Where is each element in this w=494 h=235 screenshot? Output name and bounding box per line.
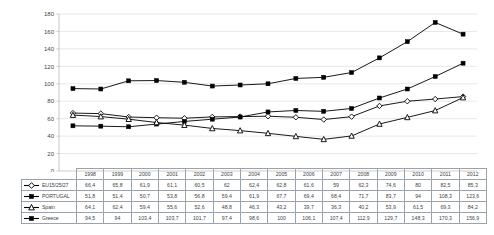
table-cell: 83,7 bbox=[377, 191, 404, 202]
column-header-2001: 2001 bbox=[158, 169, 185, 180]
filled-square-marker bbox=[322, 109, 326, 113]
series-legend-portugal: PORTUGAL bbox=[22, 191, 77, 202]
table-cell: 50,7 bbox=[131, 191, 158, 202]
y-axis-tick-label: 40 bbox=[47, 133, 54, 139]
table-cell: 85,3 bbox=[459, 180, 486, 191]
filled-square-marker bbox=[322, 75, 326, 79]
table-row: EU15/25/2766,465,861,961,160,56262,462,8… bbox=[22, 180, 487, 191]
chart-canvas: 020406080100120140160180 bbox=[0, 0, 494, 172]
table-cell: 98,6 bbox=[240, 213, 267, 224]
series-legend-eu15-25-27: EU15/25/27 bbox=[22, 180, 77, 191]
table-cell: 62,3 bbox=[350, 180, 377, 191]
column-header-2005: 2005 bbox=[268, 169, 295, 180]
table-cell: 55,6 bbox=[158, 202, 185, 213]
filled-square-marker bbox=[461, 32, 465, 36]
table-cell: 39,7 bbox=[295, 202, 322, 213]
table-cell: 60,5 bbox=[186, 180, 213, 191]
table-cell: 106,1 bbox=[295, 213, 322, 224]
table-cell: 59 bbox=[322, 180, 349, 191]
series-label: Greece bbox=[42, 214, 75, 223]
filled-square-marker bbox=[350, 106, 354, 110]
filled-square-marker bbox=[71, 87, 75, 91]
table-cell: 68,4 bbox=[322, 191, 349, 202]
table-cell: 156,9 bbox=[459, 213, 486, 224]
legend-marker-open-triangle-icon bbox=[23, 203, 40, 212]
filled-square-marker bbox=[350, 71, 354, 75]
filled-square-marker bbox=[266, 82, 270, 86]
table-cell: 94 bbox=[104, 213, 131, 224]
table-cell: 61,9 bbox=[131, 180, 158, 191]
table-cell: 148,3 bbox=[404, 213, 431, 224]
column-header-2012: 2012 bbox=[459, 169, 486, 180]
table-cell: 46,3 bbox=[240, 202, 267, 213]
filled-square-marker bbox=[182, 80, 186, 84]
table-cell: 59,4 bbox=[131, 202, 158, 213]
open-diamond-marker bbox=[29, 182, 35, 188]
table-cell: 62,8 bbox=[268, 180, 295, 191]
column-header-2004: 2004 bbox=[240, 169, 267, 180]
data-table: 1998199920002001200220032004200520062007… bbox=[21, 168, 487, 224]
table-cell: 64,1 bbox=[77, 202, 104, 213]
filled-square-marker bbox=[127, 79, 131, 83]
y-axis-tick-label: 140 bbox=[44, 46, 55, 52]
column-header-2003: 2003 bbox=[213, 169, 240, 180]
table-cell: 100 bbox=[268, 213, 295, 224]
table-corner-cell bbox=[22, 169, 77, 180]
filled-square-marker bbox=[377, 56, 381, 60]
filled-square-marker bbox=[99, 124, 103, 128]
table-cell: 80 bbox=[404, 180, 431, 191]
table-cell: 61,5 bbox=[404, 202, 431, 213]
series-label: Spain bbox=[42, 203, 75, 212]
filled-square-marker bbox=[433, 20, 437, 24]
filled-square-marker bbox=[29, 194, 33, 198]
series-legend-spain: Spain bbox=[22, 202, 77, 213]
filled-square-marker bbox=[405, 40, 409, 44]
column-header-2008: 2008 bbox=[350, 169, 377, 180]
table-header-row: 1998199920002001200220032004200520062007… bbox=[22, 169, 487, 180]
y-axis-tick-label: 180 bbox=[44, 11, 55, 17]
legend-marker-filled-square-icon bbox=[23, 214, 40, 223]
column-header-2010: 2010 bbox=[404, 169, 431, 180]
column-header-2007: 2007 bbox=[322, 169, 349, 180]
y-axis-tick-label: 20 bbox=[47, 151, 54, 157]
table-cell: 62,4 bbox=[104, 202, 131, 213]
table-cell: 53,9 bbox=[377, 202, 404, 213]
legend-marker-open-diamond-icon bbox=[23, 181, 40, 190]
series-label: PORTUGAL bbox=[42, 192, 75, 201]
filled-square-marker bbox=[210, 84, 214, 88]
table-cell: 170,3 bbox=[432, 213, 459, 224]
y-axis-tick-label: 80 bbox=[47, 98, 54, 104]
filled-square-marker bbox=[29, 216, 33, 220]
filled-square-marker bbox=[433, 75, 437, 79]
series-data-table: 1998199920002001200220032004200520062007… bbox=[21, 168, 486, 224]
filled-square-marker bbox=[405, 87, 409, 91]
table-cell: 112,9 bbox=[350, 213, 377, 224]
table-head: 1998199920002001200220032004200520062007… bbox=[22, 169, 487, 180]
table-cell: 48,8 bbox=[213, 202, 240, 213]
filled-square-marker bbox=[266, 110, 270, 114]
table-cell: 69,3 bbox=[432, 202, 459, 213]
table-row: PORTUGAL51,851,450,753,856,859,461,967,7… bbox=[22, 191, 487, 202]
series-label: EU15/25/27 bbox=[42, 181, 75, 190]
table-cell: 66,4 bbox=[77, 180, 104, 191]
table-cell: 61,9 bbox=[240, 191, 267, 202]
filled-square-marker bbox=[238, 83, 242, 87]
filled-square-marker bbox=[461, 61, 465, 65]
table-cell: 61,1 bbox=[158, 180, 185, 191]
table-cell: 65,8 bbox=[104, 180, 131, 191]
table-cell: 94 bbox=[404, 191, 431, 202]
table-cell: 59,4 bbox=[213, 191, 240, 202]
filled-square-marker bbox=[127, 125, 131, 129]
table-cell: 123,6 bbox=[459, 191, 486, 202]
table-cell: 51,4 bbox=[104, 191, 131, 202]
plot-background bbox=[59, 14, 477, 171]
table-cell: 101,7 bbox=[186, 213, 213, 224]
line-chart: 020406080100120140160180 bbox=[0, 0, 494, 172]
filled-square-marker bbox=[71, 124, 75, 128]
filled-square-marker bbox=[238, 115, 242, 119]
table-cell: 51,8 bbox=[77, 191, 104, 202]
figure-container: 020406080100120140160180 199819992000200… bbox=[0, 0, 494, 235]
filled-square-marker bbox=[155, 79, 159, 83]
filled-square-marker bbox=[377, 96, 381, 100]
table-cell: 43,2 bbox=[268, 202, 295, 213]
